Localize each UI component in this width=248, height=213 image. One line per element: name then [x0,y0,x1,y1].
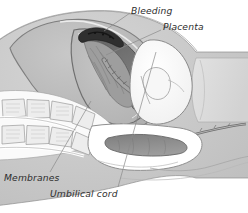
pelvic-floor [88,124,202,171]
label-umbilical-cord: Umbilical cord [50,189,118,198]
label-bleeding: Bleeding [131,6,172,15]
thigh-block [192,58,248,122]
label-membranes: Membranes [4,173,59,182]
label-placenta: Placenta [163,22,204,31]
medical-illustration-figure: Bleeding Placenta Membranes Umbilical co… [0,0,248,213]
